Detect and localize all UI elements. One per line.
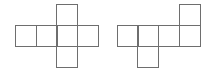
net-square	[56, 4, 78, 26]
net-square	[137, 46, 159, 68]
net-square	[56, 25, 78, 47]
net-square	[158, 25, 180, 47]
net-square	[179, 25, 201, 47]
net-square	[179, 4, 201, 26]
net-square	[117, 25, 139, 47]
net-square	[77, 25, 99, 47]
net-square	[137, 25, 159, 47]
net-square	[56, 46, 78, 68]
net-square	[36, 25, 58, 47]
net-square	[15, 25, 37, 47]
